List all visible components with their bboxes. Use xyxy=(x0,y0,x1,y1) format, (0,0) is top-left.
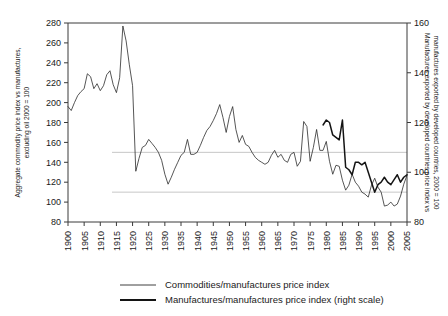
y-axis-left-title: Aggregate commodity price index vs manuf… xyxy=(14,47,31,197)
y-tick-label-left: 260 xyxy=(46,38,61,48)
y-tick-label-left: 160 xyxy=(46,138,61,148)
y-axis-left-ticks: 80100120140160180200220240260280 xyxy=(46,18,68,227)
y-axis-right-title-line: Manufactures exported by developed count… xyxy=(423,33,431,213)
chart-legend: Commodities/manufactures price indexManu… xyxy=(120,279,384,305)
y-tick-label-left: 100 xyxy=(46,197,61,207)
x-tick-label: 1980 xyxy=(322,231,332,251)
reference-lines xyxy=(112,152,407,192)
series-line-2 xyxy=(323,120,407,192)
y-tick-label-left: 240 xyxy=(46,58,61,68)
y-axis-right-title-line: manufactures exported by developed count… xyxy=(432,36,440,210)
x-tick-label: 1915 xyxy=(112,231,122,251)
y-tick-label-left: 80 xyxy=(51,217,61,227)
x-tick-label: 1975 xyxy=(306,231,316,251)
y-tick-label-right: 80 xyxy=(414,217,424,227)
x-tick-label: 1925 xyxy=(144,231,154,251)
chart-figure: 80100120140160180200220240260280 8010012… xyxy=(0,0,448,316)
y-axis-left-title-line: excluding oil 2000 = 100 xyxy=(23,87,31,159)
x-tick-label: 1930 xyxy=(160,231,170,251)
y-tick-label-left: 140 xyxy=(46,158,61,168)
y-tick-label-left: 120 xyxy=(46,177,61,187)
x-tick-label: 1995 xyxy=(370,231,380,251)
x-tick-label: 1970 xyxy=(289,231,299,251)
y-tick-label-right: 160 xyxy=(414,18,429,28)
x-tick-label: 1920 xyxy=(128,231,138,251)
legend-label-2: Manufactures/manufactures price index (r… xyxy=(165,294,384,305)
x-tick-label: 1950 xyxy=(225,231,235,251)
y-tick-label-left: 280 xyxy=(46,18,61,28)
x-axis-ticks: 1900190519101915192019251930193519401945… xyxy=(63,222,412,251)
x-tick-label: 1960 xyxy=(257,231,267,251)
x-tick-label: 1910 xyxy=(96,231,106,251)
x-tick-label: 1955 xyxy=(241,231,251,251)
x-tick-label: 1945 xyxy=(209,231,219,251)
x-tick-label: 1900 xyxy=(63,231,73,251)
y-axis-left-title-line: Aggregate commodity price index vs manuf… xyxy=(14,47,22,197)
x-tick-label: 1935 xyxy=(176,231,186,251)
line-chart: 80100120140160180200220240260280 8010012… xyxy=(0,0,448,316)
x-tick-label: 1965 xyxy=(273,231,283,251)
y-tick-label-left: 200 xyxy=(46,98,61,108)
y-tick-label-left: 220 xyxy=(46,78,61,88)
x-tick-label: 2005 xyxy=(402,231,412,251)
x-tick-label: 1940 xyxy=(193,231,203,251)
series-line-1 xyxy=(68,26,407,206)
x-tick-label: 1905 xyxy=(80,231,90,251)
x-tick-label: 1985 xyxy=(338,231,348,251)
legend-label-1: Commodities/manufactures price index xyxy=(165,279,329,290)
y-axis-right-title: Manufactures exported by developed count… xyxy=(423,33,440,213)
data-series-layer xyxy=(68,26,407,206)
y-tick-label-left: 180 xyxy=(46,118,61,128)
x-tick-label: 2000 xyxy=(386,231,396,251)
x-tick-label: 1990 xyxy=(354,231,364,251)
